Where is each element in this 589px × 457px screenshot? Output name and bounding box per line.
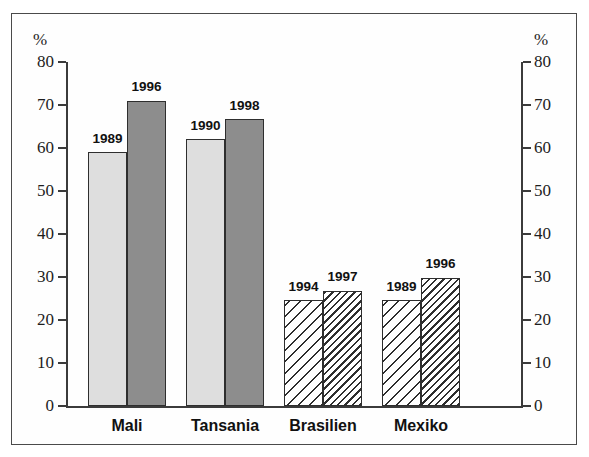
bar-chart: % % 80 70 60 50 40 30 20 10 0 80 70 60 5 [0,0,589,457]
chart-frame [11,13,577,445]
